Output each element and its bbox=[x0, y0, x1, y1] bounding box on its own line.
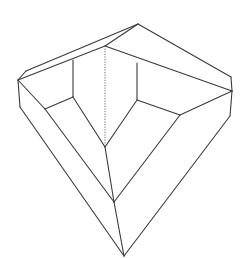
visible-edges bbox=[18, 24, 232, 256]
edge-right_knee-right_outer bbox=[231, 77, 232, 91]
edge-left_outer-inner_left_bottom bbox=[18, 80, 45, 109]
edge-inner_center_bottom-mid_lower bbox=[105, 147, 114, 202]
edge-inner_back_bottom-inner_center_bottom bbox=[73, 97, 105, 147]
edge-right_outer-right_lower bbox=[230, 91, 232, 116]
edge-left_outer-inner_back_top bbox=[18, 46, 105, 80]
edge-inner_right_bottom-inner_center_bottom bbox=[105, 100, 137, 147]
edge-left_outer-left_lower bbox=[18, 80, 20, 107]
edge-apex_top-right_knee bbox=[138, 24, 231, 77]
edge-inner_back_top-right_outer bbox=[105, 46, 232, 91]
edge-left_lower-apex_bottom bbox=[20, 107, 124, 256]
edge-inner_left_bottom-mid_lower bbox=[45, 109, 114, 202]
edge-inner_right_corner-mid_lower bbox=[114, 115, 180, 202]
edge-inner_right_bottom-inner_right_corner bbox=[137, 100, 180, 115]
crystal-line-drawing bbox=[0, 0, 248, 258]
crystal-diagram bbox=[0, 0, 248, 258]
edge-left_knee-apex_top bbox=[26, 24, 138, 71]
edge-inner_right_corner-right_outer bbox=[180, 91, 232, 115]
edge-right_lower-apex_bottom bbox=[124, 116, 230, 256]
edge-inner_left_bottom-inner_back_bottom bbox=[45, 97, 73, 109]
edge-apex_top-inner_back_top bbox=[105, 24, 138, 46]
